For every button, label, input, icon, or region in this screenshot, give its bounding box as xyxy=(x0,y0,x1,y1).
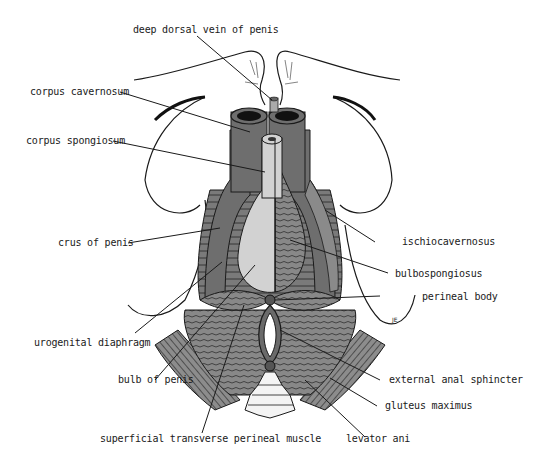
label-corpus-spongiosum: corpus spongiosum xyxy=(26,135,125,147)
label-levator-ani: levator ani xyxy=(346,433,410,445)
label-gluteus-maximus: gluteus maximus xyxy=(385,400,472,412)
label-perineal-body: perineal body xyxy=(422,291,498,303)
svg-text:JE: JE xyxy=(391,316,398,324)
anatomy-figure: JE deep dorsal vein of penis corpus cave… xyxy=(0,0,535,466)
label-crus-of-penis: crus of penis xyxy=(58,237,134,249)
label-ischiocavernosus: ischiocavernosus xyxy=(402,236,495,248)
label-superficial-transverse-perineal-muscle: superficial transverse perineal muscle xyxy=(100,433,321,445)
label-urogenital-diaphragm: urogenital diaphragm xyxy=(34,337,150,349)
perineum-illustration: JE xyxy=(0,0,535,466)
label-corpus-cavernosum: corpus cavernosum xyxy=(30,86,129,98)
label-deep-dorsal-vein: deep dorsal vein of penis xyxy=(133,24,279,36)
label-bulbospongiosus: bulbospongiosus xyxy=(395,268,482,280)
label-bulb-of-penis: bulb of penis xyxy=(118,374,194,386)
label-external-anal-sphincter: external anal sphincter xyxy=(389,374,523,386)
